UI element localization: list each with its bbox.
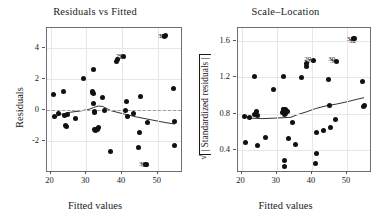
y-tick-label: 2 xyxy=(13,73,39,83)
x-tick-mark xyxy=(121,171,122,174)
x-tick-mark xyxy=(85,171,86,174)
data-point xyxy=(328,125,333,130)
point-label-29: 29 xyxy=(304,55,311,63)
x-tick-mark xyxy=(311,171,312,174)
y-tick-mark xyxy=(233,76,236,77)
gridline-horizontal xyxy=(238,150,370,151)
data-point xyxy=(321,128,326,133)
point-label-29: 29 xyxy=(116,52,123,60)
data-point xyxy=(299,75,304,80)
x-tick-label: 50 xyxy=(145,175,169,185)
y-tick-label: 0 xyxy=(13,104,39,114)
data-point xyxy=(64,124,69,129)
data-point xyxy=(125,114,130,119)
x-tick-label: 30 xyxy=(73,175,97,185)
gridline-vertical xyxy=(122,28,123,171)
x-tick-label: 40 xyxy=(109,175,133,185)
panel-title-right: Scale–Location xyxy=(190,6,381,17)
x-axis-label-left: Fitted values xyxy=(0,200,190,211)
data-point xyxy=(293,142,298,147)
y-tick-label: 0.4 xyxy=(204,144,230,154)
data-point xyxy=(100,95,105,100)
sqrt-sign-icon: √ xyxy=(199,155,211,160)
y-tick-mark xyxy=(42,109,45,110)
data-point xyxy=(73,116,78,121)
y-tick-mark xyxy=(233,113,236,114)
panel-title-left: Residuals vs Fitted xyxy=(0,6,190,17)
y-tick-label: -2 xyxy=(13,135,39,145)
data-point xyxy=(131,111,136,116)
loess-smoother-line xyxy=(244,98,364,119)
y-axis-label-right-inner: | Standardized residuals | xyxy=(199,54,211,154)
x-axis-label-right: Fitted values xyxy=(190,200,381,211)
loess-smoother-line xyxy=(53,106,174,124)
data-point xyxy=(51,92,56,97)
y-tick-mark xyxy=(42,140,45,141)
y-tick-mark xyxy=(42,47,45,48)
point-label-32: 32 xyxy=(349,37,356,45)
data-point xyxy=(145,120,150,125)
point-label-30: 30 xyxy=(141,161,148,169)
point-label-32: 32 xyxy=(160,32,167,40)
plot-svg-left xyxy=(47,28,181,171)
data-point xyxy=(247,115,252,120)
y-tick-mark xyxy=(233,40,236,41)
plot-area-left: 383224293930 xyxy=(46,27,182,172)
data-point xyxy=(252,74,257,79)
point-label-34: 34 xyxy=(330,57,337,65)
data-point xyxy=(327,103,332,108)
data-point xyxy=(123,108,128,113)
x-tick-mark xyxy=(50,171,51,174)
gridline-horizontal xyxy=(238,77,370,78)
y-tick-label: 4 xyxy=(13,42,39,52)
y-tick-label: 1.6 xyxy=(204,35,230,45)
data-point xyxy=(255,113,260,118)
data-point xyxy=(172,119,177,124)
x-tick-label: 20 xyxy=(229,175,253,185)
data-point xyxy=(314,130,319,135)
y-tick-mark xyxy=(42,78,45,79)
y-tick-label: 1.2 xyxy=(204,71,230,81)
x-tick-mark xyxy=(346,171,347,174)
plot-area-right: 383224293034 xyxy=(237,27,371,172)
x-tick-label: 40 xyxy=(299,175,323,185)
x-tick-label: 20 xyxy=(38,175,62,185)
x-tick-label: 50 xyxy=(334,175,358,185)
data-point xyxy=(61,89,66,94)
x-tick-mark xyxy=(157,171,158,174)
data-point xyxy=(271,87,276,92)
data-point xyxy=(138,94,143,99)
x-tick-mark xyxy=(276,171,277,174)
y-tick-label: 0.8 xyxy=(204,108,230,118)
data-point xyxy=(65,112,70,117)
data-point xyxy=(362,103,367,108)
x-tick-mark xyxy=(241,171,242,174)
data-point xyxy=(286,136,291,141)
panel-residuals-vs-fitted: Residuals vs Fitted 383224293930 Fitted … xyxy=(0,0,190,215)
y-tick-mark xyxy=(233,149,236,150)
data-point xyxy=(91,91,96,96)
gridline-horizontal xyxy=(47,141,181,142)
gridline-vertical xyxy=(51,28,52,171)
panel-scale-location: Scale–Location 383224293034 Fitted value… xyxy=(190,0,381,215)
data-point xyxy=(81,76,86,81)
gridline-vertical xyxy=(86,28,87,171)
gridline-horizontal xyxy=(47,79,181,80)
gridline-vertical xyxy=(158,28,159,171)
x-tick-label: 30 xyxy=(264,175,288,185)
data-point xyxy=(124,99,129,104)
gridline-horizontal xyxy=(47,48,181,49)
zero-reference-line xyxy=(47,110,181,111)
figure-root: Residuals vs Fitted 383224293930 Fitted … xyxy=(0,0,381,215)
